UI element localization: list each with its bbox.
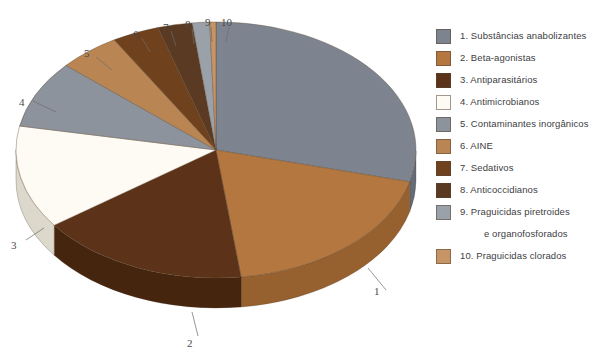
chart-plot-area: 1 2 3 4 5 6 7 8 9 10 [0,0,430,356]
callout-label-2: 2 [187,338,193,349]
legend-row[interactable]: 4. Antimicrobianos [436,94,608,116]
callout-label-7: 7 [163,22,169,33]
callout-label-5: 5 [84,48,90,59]
legend-swatch [436,95,451,110]
legend-row[interactable]: e organofosforados [436,226,608,248]
legend-swatch [436,161,451,176]
legend-label: 8. Anticoccidianos [460,182,538,198]
legend-row[interactable]: 5. Contaminantes inorgânicos [436,116,608,138]
legend-row[interactable]: 1. Substâncias anabolizantes [436,28,608,50]
legend-swatch [436,139,451,154]
legend-row[interactable]: 2. Beta-agonistas [436,50,608,72]
callout-label-3: 3 [11,240,17,251]
legend-swatch [436,29,451,44]
callout-label-9: 9 [205,17,211,28]
pie-chart-figure: 1 2 3 4 5 6 7 8 9 10 1. Substâncias anab… [0,0,608,356]
callout-label-1: 1 [374,286,380,297]
legend-row[interactable]: 6. AINE [436,138,608,160]
callout-label-6: 6 [133,29,139,40]
legend-row[interactable]: 3. Antiparasitários [436,72,608,94]
legend-label: 7. Sedativos [460,160,513,176]
legend-row[interactable]: 8. Anticoccidianos [436,182,608,204]
legend-swatch [436,183,451,198]
legend-label: 5. Contaminantes inorgânicos [460,116,589,132]
legend-label: 4. Antimicrobianos [460,94,539,110]
legend-swatch [436,51,451,66]
legend-label: 10. Praguicidas clorados [460,248,566,264]
callout-label-4: 4 [19,97,25,108]
callout-label-8: 8 [185,19,191,30]
pie-top-faces [16,22,416,278]
legend-label: e organofosforados [484,226,568,242]
legend-swatch [436,249,451,264]
legend-row[interactable]: 10. Praguicidas clorados [436,248,608,270]
legend-row[interactable]: 7. Sedativos [436,160,608,182]
legend-label: 6. AINE [460,138,493,154]
legend-swatch [436,73,451,88]
legend-label: 2. Beta-agonistas [460,50,536,66]
legend-swatch [436,117,451,132]
pie-chart-svg [0,0,430,356]
leader-line-2 [192,312,198,336]
legend-swatch [436,205,451,220]
legend-label: 3. Antiparasitários [460,72,537,88]
legend-swatch-placeholder [436,227,451,242]
chart-legend: 1. Substâncias anabolizantes2. Beta-agon… [436,28,608,270]
callout-label-10: 10 [221,17,232,28]
legend-label: 9. Praguicidas piretroides [460,204,570,220]
legend-label: 1. Substâncias anabolizantes [460,28,586,44]
legend-row[interactable]: 9. Praguicidas piretroides [436,204,608,226]
